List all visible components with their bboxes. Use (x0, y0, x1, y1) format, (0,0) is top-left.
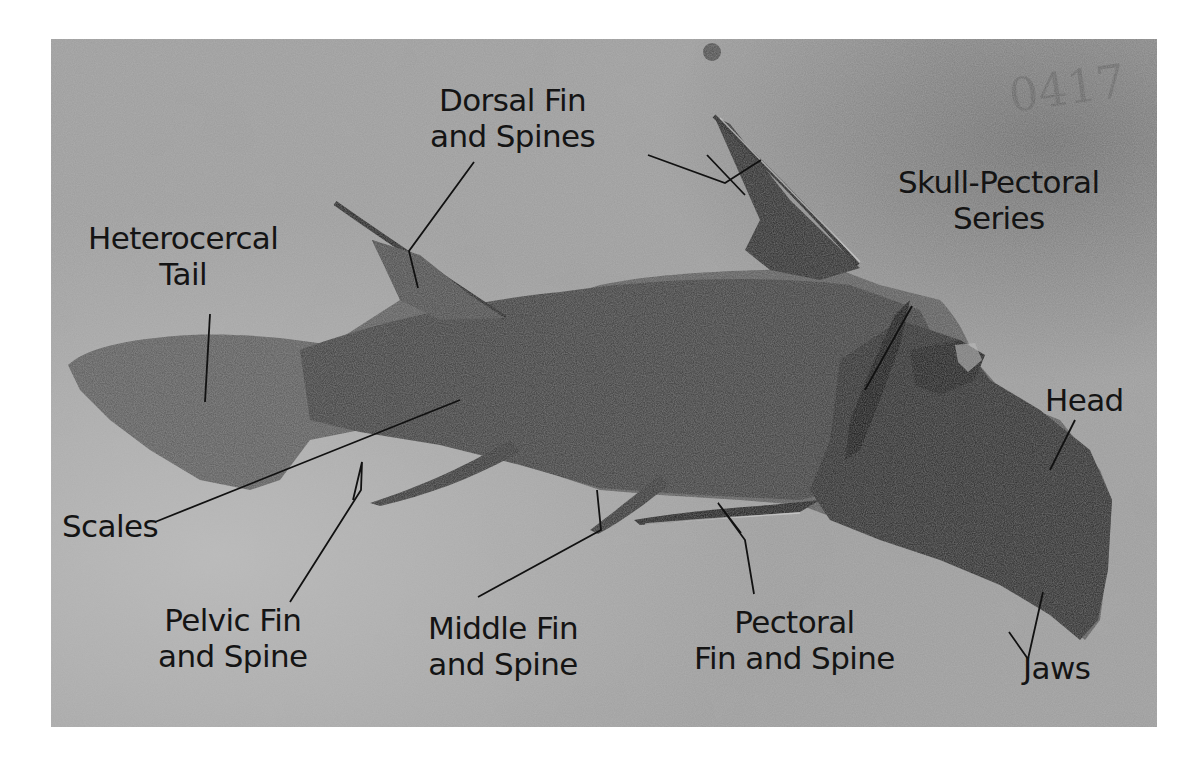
label-line: Middle Fin (428, 610, 578, 646)
label-line: Head (1045, 382, 1124, 418)
label-jaws: Jaws (1023, 650, 1090, 686)
label-line: Scales (62, 508, 158, 544)
label-line: Skull-Pectoral (898, 164, 1100, 200)
leader-line-skull-pectoral (865, 306, 912, 390)
label-heterocercal-tail: Heterocercal Tail (88, 220, 278, 292)
leader-line-tail (205, 314, 210, 402)
label-line: Jaws (1023, 650, 1090, 686)
label-line: Series (898, 200, 1100, 236)
leader-line-scales (155, 400, 460, 522)
label-line: Dorsal Fin (430, 82, 595, 118)
label-line: and Spine (428, 646, 578, 682)
label-line: Pectoral (694, 604, 895, 640)
label-line: Pelvic Fin (158, 602, 307, 638)
leader-line-dorsal-left (409, 162, 474, 288)
label-scales: Scales (62, 508, 158, 544)
leader-line-dorsal-right-b (707, 155, 745, 195)
annotated-fossil-figure: 0417 (0, 0, 1201, 762)
leader-line-pelvic (290, 462, 362, 602)
leader-line-head (1050, 420, 1075, 470)
label-line: Tail (88, 256, 278, 292)
label-pectoral-fin-and-spine: Pectoral Fin and Spine (694, 604, 895, 676)
label-line: Heterocercal (88, 220, 278, 256)
label-middle-fin-and-spine: Middle Fin and Spine (428, 610, 578, 682)
label-head: Head (1045, 382, 1124, 418)
label-pelvic-fin-and-spine: Pelvic Fin and Spine (158, 602, 307, 674)
leader-line-jaws (1009, 592, 1043, 659)
label-line: Fin and Spine (694, 640, 895, 676)
label-line: and Spines (430, 118, 595, 154)
label-dorsal-fin-and-spines: Dorsal Fin and Spines (430, 82, 595, 154)
label-skull-pectoral-series: Skull-Pectoral Series (898, 164, 1100, 236)
leader-line-dorsal-right (648, 155, 761, 183)
leader-line-pectoral (718, 503, 754, 594)
label-line: and Spine (158, 638, 307, 674)
leader-line-middle (478, 490, 601, 597)
